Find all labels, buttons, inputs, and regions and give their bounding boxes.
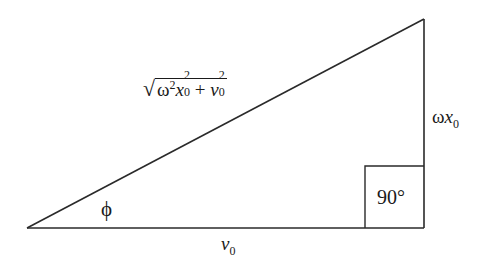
v-variable: v bbox=[210, 79, 218, 100]
v-subscript: 0 bbox=[229, 244, 235, 258]
hypotenuse-label: √ω2x200 + v200 bbox=[143, 78, 227, 100]
x-variable: x bbox=[445, 106, 453, 127]
radicand: ω2x200 + v200 bbox=[155, 78, 227, 99]
x-scripts: 200 bbox=[184, 80, 190, 99]
x-subscript: 0 bbox=[453, 117, 459, 131]
v-subscript: 0 bbox=[219, 86, 225, 98]
x-exponent: 2 bbox=[184, 69, 190, 81]
x-variable: x bbox=[176, 79, 184, 100]
plus-sign: + bbox=[195, 79, 206, 100]
vertical-side-label: ωx0 bbox=[432, 107, 459, 126]
sqrt-symbol: √ bbox=[143, 76, 155, 101]
omega-symbol: ω bbox=[432, 106, 445, 127]
v-scripts: 200 bbox=[219, 80, 225, 99]
x-subscript: 0 bbox=[184, 86, 190, 98]
base-label: v0 bbox=[221, 234, 235, 253]
angle-phi-label: ϕ bbox=[101, 199, 112, 220]
right-angle-label: 90° bbox=[377, 187, 405, 207]
v-exponent: 2 bbox=[219, 69, 225, 81]
omega-symbol: ω bbox=[157, 79, 170, 100]
triangle-diagram bbox=[0, 0, 478, 264]
